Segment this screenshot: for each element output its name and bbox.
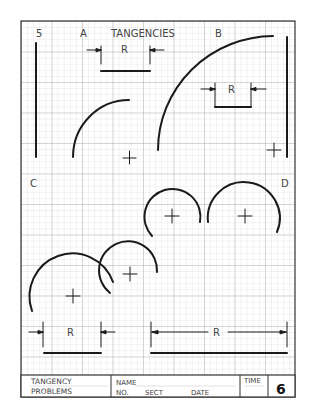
problem-a-r-label: R <box>121 44 128 55</box>
sheet-number-label: 5 <box>36 28 42 39</box>
problem-title-line1: TANGENCY <box>30 377 72 386</box>
date-field-label: DATE <box>191 389 209 397</box>
time-field-label: TIME <box>243 377 261 385</box>
section-c-label: C <box>30 178 37 189</box>
sheet-number: 6 <box>276 381 286 397</box>
section-b-label: B <box>215 28 222 39</box>
sect-field-label: SECT <box>145 389 164 397</box>
problem-b-r-label: R <box>228 84 235 95</box>
no-field-label: NO. <box>116 389 129 397</box>
name-field-label: NAME <box>116 379 137 387</box>
worksheet-drawing: 5 A TANGENCIES B C D <box>0 0 311 419</box>
sheet-title: TANGENCIES <box>110 28 175 39</box>
problem-c-r-label: R <box>67 327 74 338</box>
grid-paper <box>21 21 295 375</box>
section-d-label: D <box>281 178 289 189</box>
problem-title-line2: PROBLEMS <box>31 387 72 396</box>
section-a-label: A <box>80 28 87 39</box>
long-r-label: R <box>213 327 220 338</box>
